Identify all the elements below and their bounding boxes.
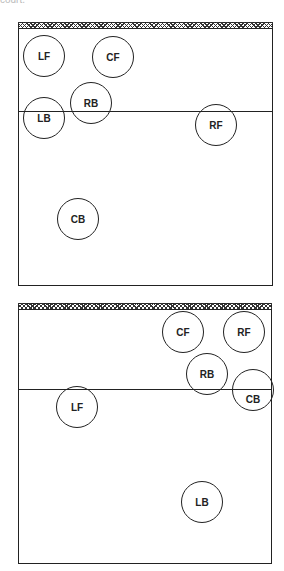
- player-label: CB: [71, 214, 85, 225]
- caption-fragment: court.: [0, 0, 25, 5]
- player-lf: LF: [56, 386, 98, 428]
- player-label: RB: [84, 98, 98, 109]
- player-cb: CB: [232, 369, 274, 411]
- player-label: CF: [106, 52, 119, 63]
- player-label: CF: [176, 327, 189, 338]
- player-rb: RB: [186, 353, 228, 395]
- net: [18, 22, 273, 29]
- player-label: LF: [38, 51, 50, 62]
- player-lb: LB: [23, 97, 65, 139]
- player-rb: RB: [70, 82, 112, 124]
- player-rf: RF: [195, 104, 237, 146]
- player-label: RF: [209, 120, 222, 131]
- player-lb: LB: [181, 481, 223, 523]
- net: [18, 303, 272, 310]
- player-label: LB: [195, 497, 208, 508]
- player-rf: RF: [223, 311, 265, 353]
- player-label: LF: [71, 402, 83, 413]
- player-lf: LF: [23, 35, 65, 77]
- player-cf: CF: [92, 36, 134, 78]
- player-cf: CF: [162, 311, 204, 353]
- player-label: RB: [200, 369, 214, 380]
- player-label: CB: [246, 394, 260, 405]
- player-label: LB: [37, 113, 50, 124]
- player-label: RF: [237, 327, 250, 338]
- player-cb: CB: [57, 198, 99, 240]
